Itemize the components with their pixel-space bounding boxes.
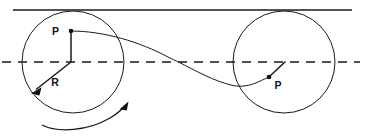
trochoid-traced-curve	[71, 31, 269, 86]
figure-canvas: P R P	[0, 0, 366, 137]
right-radius-segment	[270, 62, 286, 77]
label-radius-r: R	[51, 76, 59, 88]
rolling-circle-diagram: P R P	[0, 0, 366, 137]
label-point-p-left: P	[52, 25, 59, 37]
left-point-p-dot	[69, 29, 74, 34]
label-point-p-right: P	[274, 79, 281, 91]
right-point-p-dot	[267, 75, 272, 80]
rotation-arrowhead-icon	[120, 102, 129, 111]
